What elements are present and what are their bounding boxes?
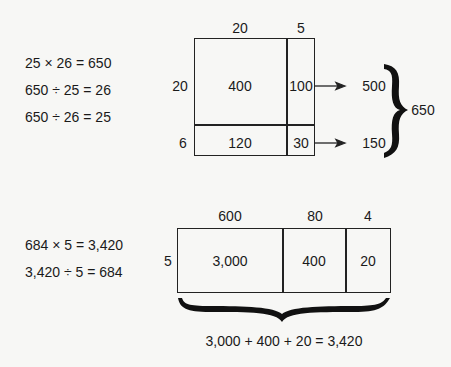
arrows-and-braces xyxy=(0,0,451,367)
arrow-icon xyxy=(315,83,345,90)
arrow-icon xyxy=(315,140,345,147)
bottom-brace-icon xyxy=(178,298,390,322)
right-brace-icon xyxy=(384,64,408,158)
